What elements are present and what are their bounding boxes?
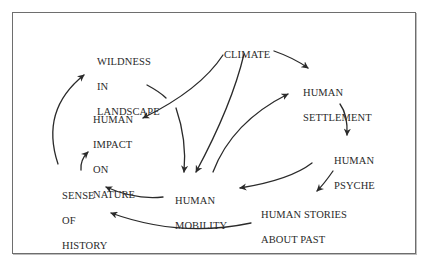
arrow-climate-to-settlement bbox=[274, 51, 308, 68]
node-label-line: IMPACT bbox=[93, 139, 135, 152]
node-label-line: IN bbox=[97, 81, 160, 94]
node-label-line: HUMAN bbox=[93, 114, 135, 127]
node-human-mobility: HUMAN MOBILITY bbox=[175, 182, 227, 245]
arrow-mobility-to-settlement bbox=[213, 94, 288, 172]
arrow-psyche-to-mobility bbox=[240, 163, 312, 188]
node-label-line: SENSE bbox=[62, 190, 107, 203]
node-label-line: HUMAN bbox=[303, 87, 372, 100]
arrow-psyche-to-stories bbox=[317, 171, 333, 191]
node-label-line: OF bbox=[62, 215, 107, 228]
node-label-line: HISTORY bbox=[62, 240, 107, 253]
node-label-line: ABOUT PAST bbox=[261, 234, 347, 247]
node-label-line: HUMAN bbox=[175, 195, 227, 208]
diagram-canvas: CLIMATE WILDNESS IN LANDSCAPE HUMAN SETT… bbox=[0, 0, 430, 274]
node-label-line: HUMAN bbox=[334, 155, 375, 168]
arrow-wildness-to-mobility-lower bbox=[176, 108, 185, 172]
node-sense-of-history: SENSE OF HISTORY bbox=[62, 177, 107, 265]
node-label-line: WILDNESS bbox=[97, 56, 160, 69]
node-label-line: HUMAN STORIES bbox=[261, 209, 347, 222]
node-label-line: PSYCHE bbox=[334, 180, 375, 193]
node-human-stories-about-past: HUMAN STORIES ABOUT PAST bbox=[261, 196, 347, 259]
arrow-history-to-wildness bbox=[53, 75, 84, 164]
node-label-line: MOBILITY bbox=[175, 220, 227, 233]
node-label-line: ON bbox=[93, 164, 135, 177]
node-human-settlement: HUMAN SETTLEMENT bbox=[303, 74, 372, 137]
node-label-line: SETTLEMENT bbox=[303, 112, 372, 125]
node-climate: CLIMATE bbox=[224, 36, 270, 74]
arrow-history-to-impact bbox=[81, 152, 88, 170]
node-label-line: CLIMATE bbox=[224, 49, 270, 62]
